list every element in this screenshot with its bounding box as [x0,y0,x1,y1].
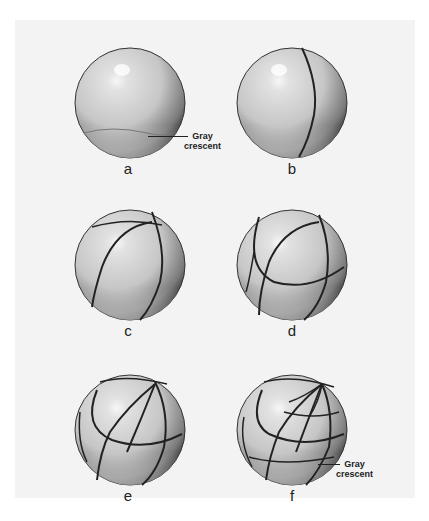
panel-label-f: f [282,487,302,504]
gray-crescent-label-f: Gray crescent [336,459,373,479]
embryo-b-two-cell [234,45,350,161]
panel-label-c: c [118,322,138,339]
embryo-a-one-cell [72,45,188,161]
embryo-c-four-cell [72,207,188,323]
panel-label-e: e [118,487,138,504]
gray-crescent-label-a: Gray crescent [184,131,221,151]
embryo-e-sixteen-cell [72,372,188,488]
embryo-d-eight-cell [234,207,350,323]
panel-label-a: a [118,160,138,177]
panel-label-d: d [282,322,302,339]
embryo-f-thirty-two-cell [234,372,350,488]
gray-crescent-leader-a [148,136,188,137]
panel-label-b: b [282,160,302,177]
